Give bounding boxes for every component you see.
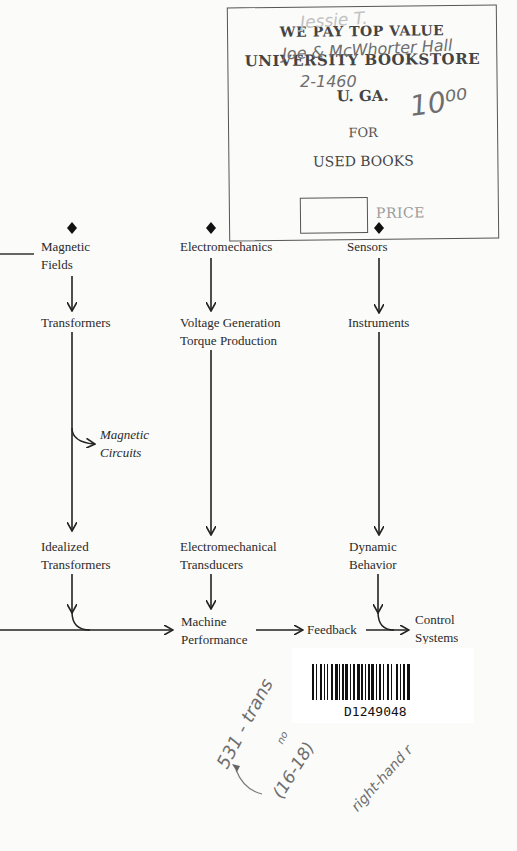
node-voltage-torque: Voltage Generation Torque Production [180, 314, 280, 350]
node-electromechanical-transducers: Electromechanical Transducers [180, 538, 277, 574]
barcode-bars [312, 664, 410, 700]
node-dynamic-behavior: Dynamic Behavior [349, 538, 397, 574]
diamond-marker [206, 222, 216, 234]
node-instruments: Instruments [348, 314, 409, 332]
barcode-number: D1249048 [344, 704, 407, 719]
stamp-line-used-books: USED BOOKS [229, 152, 497, 171]
price-label: PRICE [376, 204, 425, 221]
node-magnetic-fields: Magnetic Fields [41, 238, 90, 274]
node-sensors: Sensors [347, 238, 387, 256]
barcode-sticker: D1249048 [292, 648, 474, 723]
node-electromechanics: Electromechanics [180, 238, 272, 256]
price-box [300, 197, 368, 234]
diamond-marker [67, 222, 77, 234]
node-magnetic-circuits: Magnetic Circuits [100, 426, 149, 462]
handwriting-phone: 2-1460 [300, 72, 357, 91]
node-feedback: Feedback [307, 621, 357, 639]
node-idealized-transformers: Idealized Transformers [41, 538, 111, 574]
node-transformers: Transformers [41, 314, 111, 332]
node-machine-performance: Machine Performance [181, 613, 247, 649]
stamp-line-for: FOR [229, 124, 497, 142]
node-control-systems: Control Systems [415, 611, 458, 644]
